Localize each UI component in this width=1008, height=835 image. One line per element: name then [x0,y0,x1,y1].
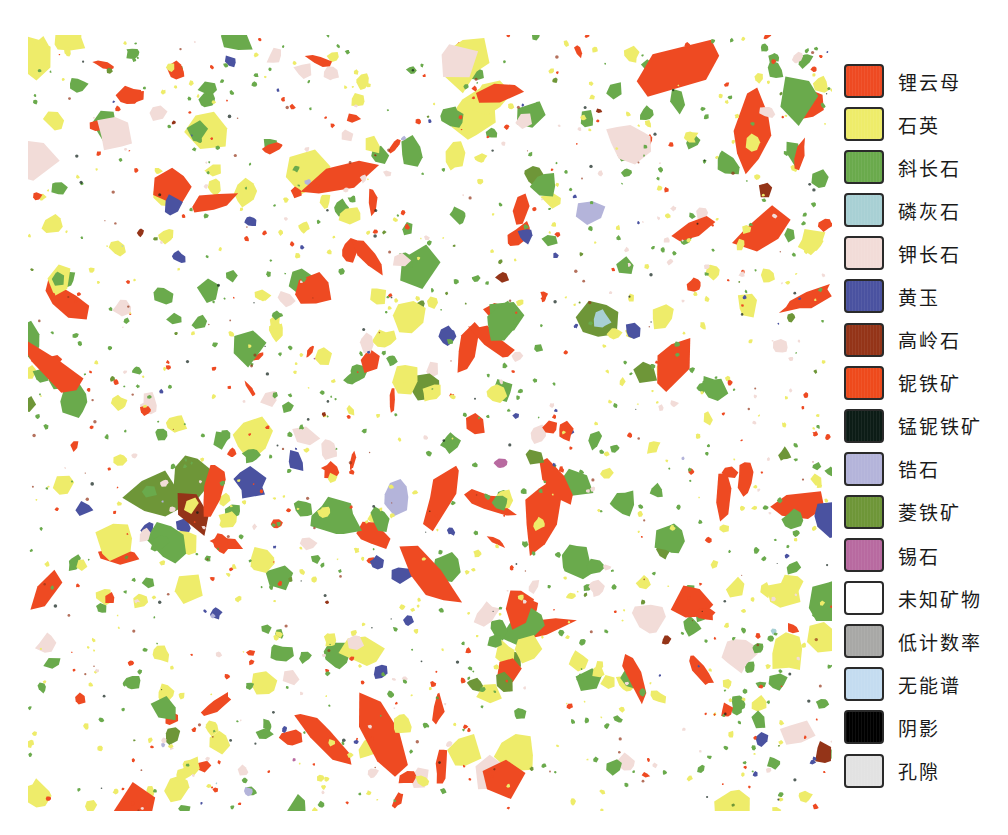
legend-item-siderite: 菱铁矿 [844,493,1004,531]
legend-swatch [844,452,884,486]
mineral-legend: 锂云母 石英 斜长石 磷灰石 钾长石 黄玉 高岭石 铌铁矿 锰铌铁矿 锆石 菱铁… [844,62,1004,795]
legend-swatch [844,236,884,270]
legend-swatch [844,150,884,184]
legend-swatch [844,495,884,529]
legend-item-pore: 孔隙 [844,752,1004,790]
legend-label: 黄玉 [898,283,940,310]
legend-item-zircon: 锆石 [844,450,1004,488]
legend-label: 锡石 [898,542,940,569]
legend-swatch [844,581,884,615]
legend-item-manganocolumbite: 锰铌铁矿 [844,407,1004,445]
legend-swatch [844,193,884,227]
legend-item-lepidolite: 锂云母 [844,62,1004,100]
legend-item-k-feldspar: 钾长石 [844,234,1004,272]
legend-swatch [844,710,884,744]
legend-label: 阴影 [898,714,940,741]
legend-label: 钾长石 [898,240,961,267]
legend-item-unknown-mineral: 未知矿物 [844,579,1004,617]
legend-label: 锂云母 [898,68,961,95]
legend-item-cassiterite: 锡石 [844,536,1004,574]
legend-item-shadow: 阴影 [844,708,1004,746]
legend-swatch [844,624,884,658]
legend-item-no-spectrum: 无能谱 [844,665,1004,703]
legend-label: 无能谱 [898,671,961,698]
legend-label: 锰铌铁矿 [898,412,982,439]
legend-label: 高岭石 [898,326,961,353]
legend-label: 未知矿物 [898,585,982,612]
legend-label: 锆石 [898,455,940,482]
legend-label: 磷灰石 [898,197,961,224]
legend-item-kaolinite: 高岭石 [844,321,1004,359]
legend-swatch [844,754,884,788]
legend-item-low-count: 低计数率 [844,622,1004,660]
legend-swatch [844,323,884,357]
legend-label: 斜长石 [898,154,961,181]
legend-swatch [844,667,884,701]
legend-item-plagioclase: 斜长石 [844,148,1004,186]
legend-swatch [844,107,884,141]
mineral-particle-map [28,35,832,811]
legend-label: 孔隙 [898,757,940,784]
legend-item-quartz: 石英 [844,105,1004,143]
legend-item-topaz: 黄玉 [844,277,1004,315]
legend-label: 铌铁矿 [898,369,961,396]
legend-label: 菱铁矿 [898,498,961,525]
legend-swatch [844,279,884,313]
legend-item-columbite: 铌铁矿 [844,364,1004,402]
legend-label: 低计数率 [898,628,982,655]
legend-swatch [844,64,884,98]
legend-item-apatite: 磷灰石 [844,191,1004,229]
legend-swatch [844,409,884,443]
legend-swatch [844,538,884,572]
particle-map-canvas [28,35,832,811]
legend-swatch [844,366,884,400]
legend-label: 石英 [898,111,940,138]
